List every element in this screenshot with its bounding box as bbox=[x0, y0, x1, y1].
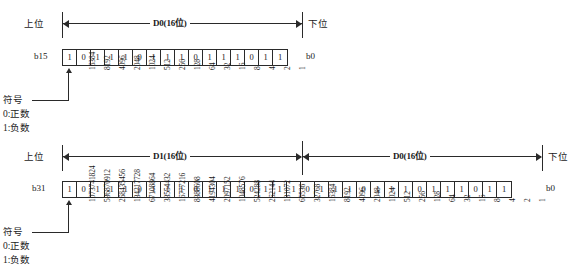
weight-32-weight-label: 131072 bbox=[283, 180, 292, 202]
sign-label-16bit: 符号 bbox=[3, 94, 23, 106]
weight-32-weight-label: 1073741824 bbox=[88, 165, 97, 202]
lower-side-label-16bit: 下位 bbox=[308, 16, 328, 32]
weight-32-weight-label: 1024 bbox=[388, 187, 397, 202]
weight-32-weight-label: 2097152 bbox=[223, 176, 232, 202]
weight-16-weight-label: 2 bbox=[283, 66, 292, 70]
span-end-tick-16bit bbox=[302, 12, 303, 38]
weight-32-weight-label: 16777216 bbox=[178, 173, 187, 202]
weight-16-weight-label: 128 bbox=[193, 59, 202, 70]
bit-16-bit-cell: 1 bbox=[259, 50, 273, 65]
sign-positive-label-32bit: 0:正数 bbox=[3, 240, 30, 252]
span-title-d1-32bit: D1(16位) bbox=[150, 148, 190, 164]
span-arrow-right-d0-32bit bbox=[536, 153, 542, 161]
weight-16-weight-label: 8 bbox=[253, 66, 262, 70]
weight-32-weight-label: 128 bbox=[433, 191, 442, 202]
span-arrow-left-d0-32bit bbox=[303, 153, 309, 161]
sign-leader-vertical-16bit bbox=[68, 72, 69, 100]
weight-32-weight-label: 33554432 bbox=[163, 173, 172, 202]
sign-leader-horizontal-16bit bbox=[32, 100, 69, 101]
weight-16-weight-label: 4 bbox=[268, 66, 277, 70]
weight-32-weight-label: 32768 bbox=[313, 184, 322, 202]
upper-side-label-32bit: 上位 bbox=[24, 149, 44, 165]
sign-label-32bit: 符号 bbox=[3, 226, 23, 238]
weight-32-weight-label: 8388608 bbox=[193, 176, 202, 202]
bit-16-bit-cell: 1 bbox=[63, 50, 77, 65]
weight-16-weight-label: 64 bbox=[208, 63, 217, 70]
span-row-32bit: 上位 D1(16位) D0(16位) 下位 bbox=[0, 149, 573, 165]
sign-negative-label-16bit: 1:负数 bbox=[3, 122, 30, 134]
weight-16-weight-label: 1 bbox=[298, 66, 307, 70]
weight-32-weight-label: 512 bbox=[403, 191, 412, 202]
sign-negative-label-32bit: 1:负数 bbox=[3, 254, 30, 266]
span-arrow-left-16bit bbox=[63, 20, 69, 28]
weight-32-weight-label: 16 bbox=[478, 195, 487, 202]
span-title-d0-16bit: D0(16位) bbox=[150, 15, 190, 31]
bit-32-bit-cell: 1 bbox=[63, 182, 77, 197]
span-arrow-right-d1-32bit bbox=[296, 153, 302, 161]
weight-32-weight-label: 4 bbox=[508, 198, 517, 202]
bit-32-bit-cell: 1 bbox=[497, 182, 511, 197]
weight-32-weight-label: 32 bbox=[463, 195, 472, 202]
weight-32-weight-label: 2048 bbox=[373, 187, 382, 202]
weight-32-weight-label: 8 bbox=[493, 198, 502, 202]
weight-32-weight-label: 524288 bbox=[253, 180, 262, 202]
weight-16-weight-label: 256 bbox=[178, 59, 187, 70]
weight-16-weight-label: 512 bbox=[163, 59, 172, 70]
span-row-16bit: 上位 D0(16位) 下位 bbox=[0, 16, 340, 32]
bit-16-bit-cell: 0 bbox=[245, 50, 259, 65]
weight-16-weight-label: 4096 bbox=[118, 55, 127, 70]
weight-32-weight-label: 536870912 bbox=[103, 169, 112, 202]
span-arrow-right-16bit bbox=[296, 20, 302, 28]
weight-32-weight-label: 64 bbox=[448, 195, 457, 202]
weight-32-weight-label: 1 bbox=[538, 198, 547, 202]
weight-32-weight-label: 67108864 bbox=[148, 173, 157, 202]
sign-positive-label-16bit: 0:正数 bbox=[3, 108, 30, 120]
lower-side-label-32bit: 下位 bbox=[548, 149, 568, 165]
sign-arrow-icon-16bit bbox=[66, 68, 72, 73]
lsb-label-32bit: b0 bbox=[546, 180, 555, 197]
weight-32-weight-label: 16384 bbox=[328, 184, 337, 202]
span-end-tick-32bit bbox=[542, 145, 543, 171]
span-title-d0-32bit: D0(16位) bbox=[390, 148, 430, 164]
msb-label-32bit: b31 bbox=[32, 180, 46, 197]
sign-arrow-icon-32bit bbox=[66, 200, 72, 205]
msb-label-16bit: b15 bbox=[34, 48, 48, 65]
weight-32-weight-label: 65536 bbox=[298, 184, 307, 202]
lsb-label-16bit: b0 bbox=[306, 48, 315, 65]
weight-32-weight-label: 262144 bbox=[268, 180, 277, 202]
weight-32-weight-label: 2 bbox=[523, 198, 532, 202]
weight-32-weight-label: 134217728 bbox=[133, 169, 142, 202]
weight-16-weight-label: 16 bbox=[238, 63, 247, 70]
weight-16-weight-label: 2048 bbox=[133, 55, 142, 70]
sign-leader-vertical-32bit bbox=[68, 204, 69, 232]
weight-32-weight-label: 256 bbox=[418, 191, 427, 202]
bit-16-bit-cell: 1 bbox=[273, 50, 287, 65]
weight-16-weight-label: 8192 bbox=[103, 55, 112, 70]
weight-32-weight-label: 8192 bbox=[343, 187, 352, 202]
weight-16-weight-label: 16384 bbox=[88, 52, 97, 70]
span-arrow-left-d1-32bit bbox=[63, 153, 69, 161]
weight-32-weight-label: 268435456 bbox=[118, 169, 127, 202]
sign-leader-horizontal-32bit bbox=[32, 232, 69, 233]
weight-16-weight-label: 32 bbox=[223, 63, 232, 70]
weight-16-weight-label: 1024 bbox=[148, 55, 157, 70]
weight-32-weight-label: 4096 bbox=[358, 187, 367, 202]
upper-side-label-16bit: 上位 bbox=[24, 16, 44, 32]
weight-32-weight-label: 1048576 bbox=[238, 176, 247, 202]
weight-32-weight-label: 4194304 bbox=[208, 176, 217, 202]
